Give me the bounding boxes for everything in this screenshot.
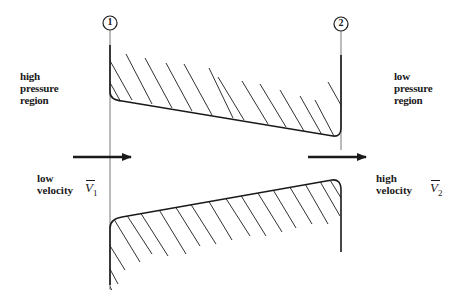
outlet-velocity-line-1: high [376, 172, 412, 184]
lower-wall-outline [110, 180, 341, 285]
outlet-velocity-line-2: velocity [376, 184, 412, 196]
high-pressure-region-label: high pressure region [20, 70, 58, 106]
outlet-velocity-label: high velocity [376, 172, 412, 196]
low-pressure-region-label: low pressure region [394, 70, 432, 106]
v-symbol: V [430, 180, 438, 195]
subscript-1: 1 [93, 188, 98, 198]
region-left-line-2: pressure [20, 82, 58, 94]
region-right-line-1: low [394, 70, 432, 82]
nozzle-diagram [0, 0, 457, 298]
inlet-velocity-line-2: velocity [37, 184, 73, 196]
region-left-line-1: high [20, 70, 58, 82]
inlet-velocity-line-1: low [37, 172, 73, 184]
lower-wall-hatching [104, 178, 346, 294]
region-left-line-3: region [20, 94, 58, 106]
subscript-2: 2 [438, 188, 443, 198]
region-right-line-2: pressure [394, 82, 432, 94]
outlet-velocity-symbol: V2 [430, 180, 442, 198]
station-2-label: 2 [334, 17, 348, 28]
upper-wall-hatching [104, 50, 346, 138]
station-1-label: 1 [103, 16, 117, 27]
v-symbol: V [85, 180, 93, 195]
inlet-velocity-label: low velocity [37, 172, 73, 196]
inlet-velocity-symbol: V1 [85, 180, 97, 198]
region-right-line-3: region [394, 94, 432, 106]
